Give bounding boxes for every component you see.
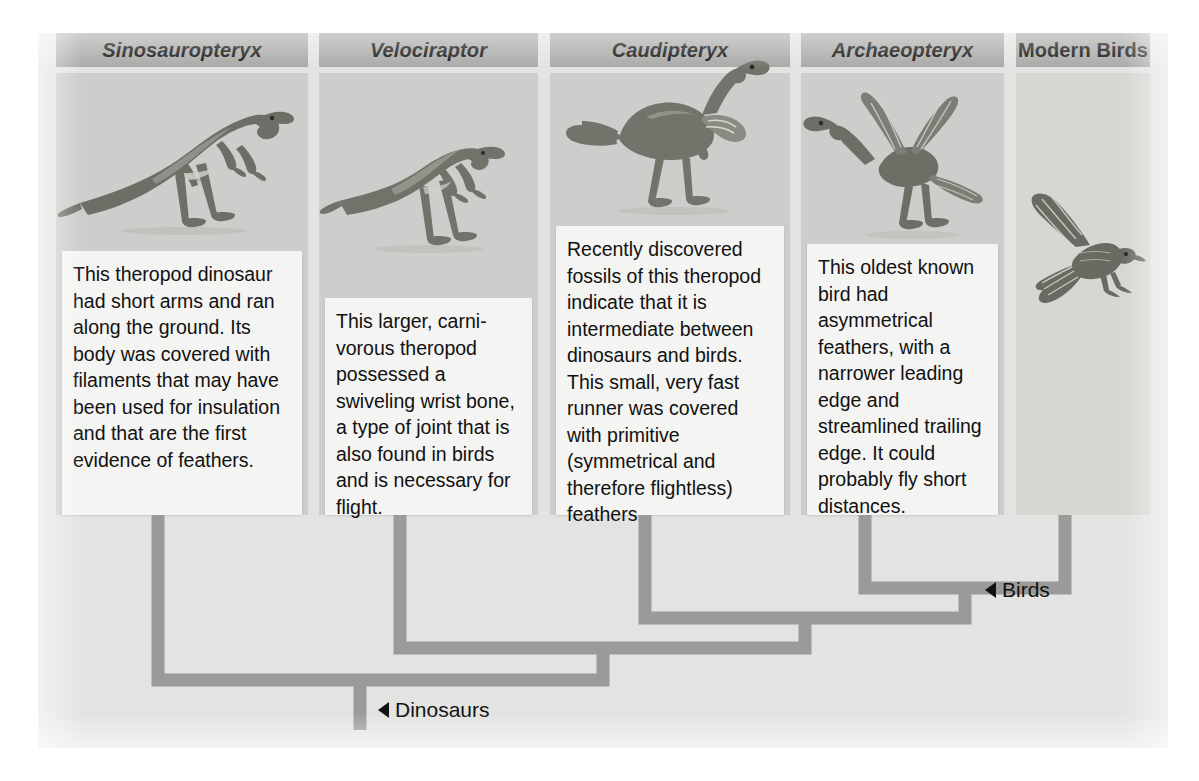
description-text: Recently discovered fossils of this ther… bbox=[567, 236, 773, 528]
column-header-velociraptor: Velociraptor bbox=[319, 33, 538, 67]
clade-label-text: Dinosaurs bbox=[395, 698, 490, 722]
column-header-label: Archaeopteryx bbox=[832, 39, 973, 62]
column-header-label: Sinosauropteryx bbox=[102, 39, 261, 62]
description-card-sinosauropteryx: This theropod dinosaur had short arms an… bbox=[62, 251, 302, 515]
archaeopteryx-icon bbox=[801, 75, 1004, 245]
column-caudipteryx: Caudipteryx bbox=[550, 33, 790, 515]
theropod-running-icon bbox=[56, 81, 308, 241]
column-header-modern-birds: Modern Birds bbox=[1016, 33, 1150, 67]
clade-label-text: Birds bbox=[1002, 578, 1050, 602]
column-archaeopteryx: Archaeopteryx bbox=[801, 33, 1004, 515]
clade-label-birds: Birds bbox=[985, 578, 1050, 602]
column-sinosauropteryx: Sinosauropteryx bbox=[56, 33, 308, 515]
description-card-caudipteryx: Recently discovered fossils of this ther… bbox=[556, 226, 784, 515]
velociraptor-icon bbox=[319, 123, 538, 278]
description-card-archaeopteryx: This oldest known bird had asymmetrical … bbox=[807, 244, 998, 515]
cladogram-figure: Sinosauropteryx bbox=[38, 33, 1168, 748]
column-header-archaeopteryx: Archaeopteryx bbox=[801, 33, 1004, 67]
column-velociraptor: Velociraptor bbox=[319, 33, 538, 515]
clade-label-dinosaurs: Dinosaurs bbox=[378, 698, 490, 722]
caudipteryx-icon bbox=[550, 33, 790, 215]
column-modern-birds: Modern Birds bbox=[1016, 33, 1150, 515]
left-triangle-icon bbox=[985, 582, 996, 598]
description-text: This oldest known bird had asymmetrical … bbox=[818, 254, 987, 519]
description-card-velociraptor: This larger, carni-vorous theropod posse… bbox=[325, 298, 532, 515]
flying-hawk-icon bbox=[1016, 173, 1150, 323]
column-header-sinosauropteryx: Sinosauropteryx bbox=[56, 33, 308, 67]
description-text: This larger, carni-vorous theropod posse… bbox=[336, 308, 521, 520]
left-triangle-icon bbox=[378, 702, 389, 718]
column-header-label: Modern Birds bbox=[1018, 39, 1148, 62]
description-text: This theropod dinosaur had short arms an… bbox=[73, 261, 291, 473]
column-header-label: Velociraptor bbox=[370, 39, 487, 62]
